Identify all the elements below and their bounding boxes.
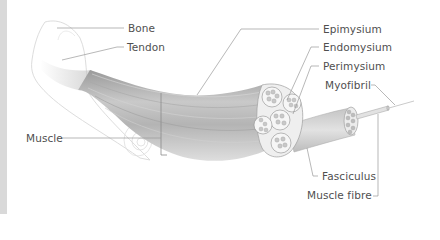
leader-epimysium — [197, 29, 319, 95]
label-myofibril: Myofibril — [325, 79, 371, 91]
label-muscle: Muscle — [26, 132, 63, 144]
label-tendon: Tendon — [127, 41, 165, 53]
label-bone: Bone — [128, 22, 155, 34]
label-perimysium: Perimysium — [323, 60, 385, 72]
label-epimysium: Epimysium — [323, 23, 382, 35]
leader-fasciculus — [307, 148, 318, 176]
leader-muscle-fibre — [373, 114, 378, 196]
label-muscle-fibre: Muscle fibre — [307, 189, 372, 201]
leader-myofibril — [371, 85, 395, 105]
myofibril-strand — [356, 106, 389, 119]
leader-tendon — [62, 47, 124, 60]
label-fasciculus: Fasciculus — [322, 170, 376, 182]
label-endomysium: Endomysium — [323, 41, 392, 53]
